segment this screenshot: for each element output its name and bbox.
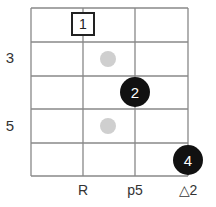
string-label-p5: p5 xyxy=(127,182,143,198)
string-label-root: R xyxy=(78,182,88,198)
string-label-maj2: △2 xyxy=(179,182,198,198)
fret-number-5: 5 xyxy=(6,117,14,134)
fretboard-grid xyxy=(0,0,216,207)
fret-number-3: 3 xyxy=(6,49,14,66)
finger-1-root-box: 1 xyxy=(71,12,95,36)
finger-2-dot: 2 xyxy=(120,77,150,107)
chord-diagram: 3 5 1 2 4 R p5 △2 xyxy=(0,0,216,207)
fret-marker-dot xyxy=(100,51,116,67)
fret-marker-dot xyxy=(100,118,116,134)
finger-4-dot: 4 xyxy=(173,145,203,175)
